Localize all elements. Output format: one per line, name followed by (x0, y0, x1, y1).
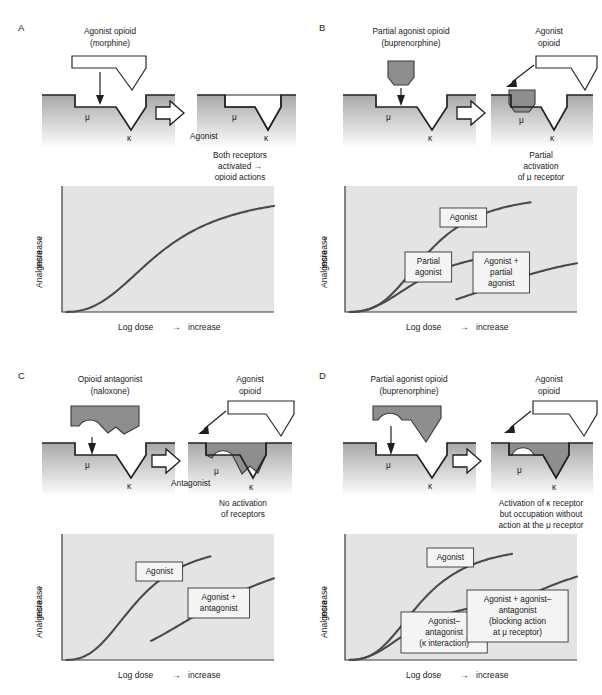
panel-c-xlabel: Log dose (118, 670, 154, 680)
panel-d-second-drug-1: Agonist (535, 374, 563, 384)
panel-d-xlabel-suffix: increase (476, 670, 509, 680)
panel-d-graph: Analgesia → increase Log dose → increase… (301, 526, 602, 691)
curve-label-callout: Agonist (427, 548, 474, 567)
panel-a-ylabel-suffix: increase (34, 236, 44, 269)
panel-c-caption-2: of receptors (221, 509, 265, 519)
panel-a-mu-label-left: μ (85, 112, 90, 122)
panel-b-caption-2: activation (523, 161, 558, 171)
panel-a-graph: Analgesia → increase Log dose → increase (0, 178, 301, 343)
panel-b-second-drug-2: opioid (538, 38, 561, 48)
panel-a: A Agonist opioid (morphine) (0, 0, 301, 347)
panel-c-caption-1: No activation (219, 498, 267, 508)
callout-label-line: Agonist + (202, 593, 237, 602)
curve-label-callout: Agonist + agonist–antagonist(blocking ac… (467, 590, 568, 642)
binding-arrow-c (88, 437, 96, 455)
panel-c-diagram: Opioid antagonist (naloxone) Agonist opi… (0, 354, 301, 529)
panel-c-drug-title-1: Opioid antagonist (78, 374, 143, 384)
panel-b-mu-label-right: μ (519, 115, 524, 125)
panel-b-diagram: Partial agonist opioid (buprenorphine) A… (301, 6, 602, 181)
panel-d-second-drug-2: opioid (538, 386, 561, 396)
panel-a-mu-label-right: μ (232, 112, 237, 122)
panel-c-graph: Analgesia → increase Log dose → increase… (0, 526, 301, 691)
panel-d-ylabel-suffix: increase (319, 586, 329, 619)
agonist-opioid-blocked-shape-b (536, 56, 597, 90)
callout-label-line: partial (490, 268, 512, 277)
panel-a-drug-title-1: Agonist opioid (84, 26, 137, 36)
panel-b-xlabel: Log dose (406, 322, 442, 332)
panel-d-caption-1: Activation of κ receptor (499, 498, 584, 508)
panel-a-caption-1: Both receptors (213, 150, 267, 160)
panel-b-xlabel-suffix: increase (476, 322, 509, 332)
callout-label-line: agonist (488, 279, 515, 288)
receptor-unbound-a (42, 95, 175, 146)
panel-c-mu-label-right: μ (214, 466, 219, 476)
panel-c: C Opioid antagonist (naloxone) Agonist o… (0, 348, 301, 695)
panel-b: B Partial agonist opioid (buprenorphine)… (301, 0, 602, 347)
callout-label-line: Agonist + (484, 257, 519, 266)
panel-c-second-drug-2: opioid (239, 386, 262, 396)
panel-d-caption-2: but occupation without (500, 509, 583, 519)
panel-a-diagram: Agonist opioid (morphine) μ κ (0, 6, 301, 181)
panel-b-xlabel-arrow: → (460, 322, 469, 332)
panel-d-drug-title-2: (buprenorphine) (379, 386, 438, 396)
panel-d-mu-label-right: μ (517, 465, 522, 475)
panel-b-caption-1: Partial (529, 150, 553, 160)
panel-c-xlabel-suffix: increase (188, 670, 221, 680)
panel-c-drug-title-2: (naloxone) (90, 386, 129, 396)
curve-label-callout: Agonist +partialagonist (473, 252, 530, 293)
panel-a-plot-area (62, 186, 274, 312)
agonist-opioid-blocked-shape-d (533, 401, 597, 436)
receptor-bound-d (491, 443, 593, 494)
binding-arrow-b (397, 88, 405, 106)
buprenorphine-molecule-shape-d (373, 406, 441, 442)
callout-label-line: at μ receptor) (493, 628, 542, 637)
panel-b-second-drug-1: Agonist (535, 26, 563, 36)
panel-b-plot-area (345, 186, 577, 312)
panel-b-drug-title-1: Partial agonist opioid (372, 26, 449, 36)
rejection-arrow-d (504, 411, 531, 433)
callout-label-line: Partial (417, 257, 440, 266)
panel-d-xlabel: Log dose (406, 670, 442, 680)
buprenorphine-molecule-shape (388, 61, 414, 85)
callout-label-line: (κ interaction) (419, 639, 469, 648)
panel-a-caption-2: activated → (218, 161, 262, 171)
panel-a-xlabel-arrow: → (172, 322, 181, 332)
panel-b-drug-title-2: (buprenorphine) (381, 38, 440, 48)
panel-a-xlabel: Log dose (118, 322, 154, 332)
panel-c-ylabel-suffix: increase (34, 586, 44, 619)
panel-a-drug-title-2: (morphine) (90, 38, 130, 48)
panel-d-xlabel-arrow: → (460, 670, 469, 680)
callout-label-line: agonist (415, 268, 442, 277)
curve-label-callout: Agonist (136, 562, 183, 581)
panel-d-diagram: Partial agonist opioid (buprenorphine) A… (301, 354, 602, 529)
callout-label-line: antagonist (499, 606, 538, 615)
naloxone-molecule-shape (71, 406, 139, 434)
panel-c-mu-label-left: μ (85, 460, 90, 470)
rejection-arrow-c (198, 411, 226, 434)
panel-a-xlabel-suffix: increase (188, 322, 221, 332)
panel-c-bound-label: Antagonist (171, 478, 211, 488)
rejection-arrow-b (506, 65, 534, 87)
curve-label-callout: Agonist (440, 208, 487, 227)
panel-d-drug-title-1: Partial agonist opioid (370, 374, 447, 384)
callout-label-line: antagonist (200, 604, 239, 613)
panel-c-second-drug-1: Agonist (236, 374, 264, 384)
panel-d: D Partial agonist opioid (buprenorphine)… (301, 348, 602, 695)
panel-a-bound-label: Agonist (190, 131, 218, 141)
curve-label-callout: Partialagonist (405, 252, 452, 282)
panel-c-xlabel-arrow: → (172, 670, 181, 680)
callout-label-line: Agonist (146, 567, 174, 576)
binding-arrow-d (387, 426, 395, 455)
curve-label-callout: Agonist +antagonist (188, 588, 250, 618)
panel-b-graph: Analgesia → increase Log dose → increase… (301, 178, 602, 343)
receptor-unbound-d (343, 443, 476, 494)
callout-label-line: antagonist (425, 628, 464, 637)
agonist-opioid-blocked-shape-c (228, 401, 294, 436)
callout-label-line: Agonist + agonist– (484, 595, 552, 604)
panel-d-mu-label-left: μ (386, 460, 391, 470)
receptor-unbound-b (343, 95, 476, 146)
callout-label-line: (blocking action (489, 617, 546, 626)
morphine-molecule-shape (72, 56, 146, 90)
receptor-bound-b (491, 90, 593, 146)
receptor-unbound-c (42, 443, 175, 494)
